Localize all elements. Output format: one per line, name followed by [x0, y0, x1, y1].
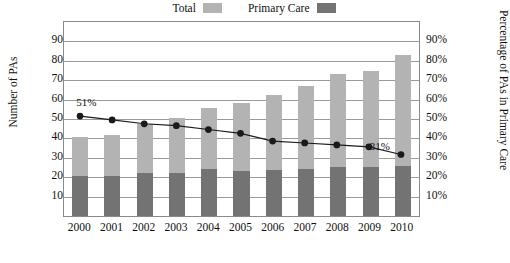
line-marker	[109, 117, 116, 124]
y-tick-label-right: 70%	[426, 73, 447, 85]
y-tick-label-right: 80%	[426, 54, 447, 66]
y-axis-title-right: Percentage of PAs in Primary Care	[498, 0, 510, 185]
data-label: 51%	[76, 97, 96, 108]
line-marker	[269, 138, 276, 145]
y-tick-label-right: 30%	[426, 151, 447, 163]
y-tick-label-right: 90%	[426, 34, 447, 46]
line-marker	[333, 142, 340, 149]
line-marker	[141, 120, 148, 127]
y-tick-label-right: 60%	[426, 93, 447, 105]
y-tick-label-right: 20%	[426, 170, 447, 182]
y-tick-label-right: 40%	[426, 131, 447, 143]
legend-swatch-total	[203, 3, 222, 13]
legend-swatch-primary-care	[317, 3, 336, 13]
line-marker	[301, 140, 308, 147]
legend-item-total: Total	[172, 2, 221, 14]
legend-label-primary-care: Primary Care	[248, 2, 310, 14]
line-marker	[398, 151, 405, 158]
plot-area	[63, 21, 420, 217]
data-label: 31%	[370, 141, 390, 152]
line-marker	[77, 113, 84, 120]
y-tick-label-right: 50%	[426, 112, 447, 124]
legend-item-primary-care: Primary Care	[248, 2, 336, 14]
line-marker	[205, 126, 212, 133]
x-tick-label: 2010	[382, 222, 422, 234]
chart-legend: Total Primary Care	[0, 2, 508, 14]
legend-label-total: Total	[172, 2, 195, 14]
line-series	[64, 22, 419, 216]
y-tick-label-right: 10%	[426, 190, 447, 202]
line-marker	[237, 130, 244, 137]
y-axis-title-left: Number of PAs	[7, 37, 19, 147]
line-marker	[173, 122, 180, 129]
